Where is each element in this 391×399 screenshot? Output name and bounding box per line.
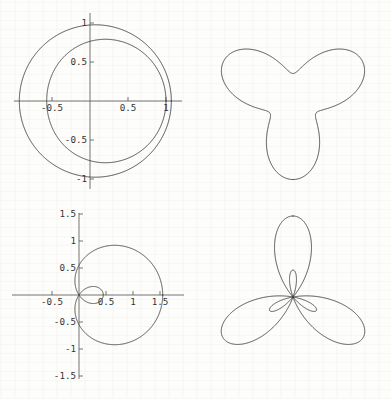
bottom-left-xlabel-1: -0.5 xyxy=(41,296,63,307)
panel-top-left: -0.5 0.5 1 1 0.5 -0.5 -1 xyxy=(0,0,196,200)
bottom-left-ylabel-3: 0.5 xyxy=(59,262,76,273)
panel-top-right xyxy=(195,0,391,200)
top-left-xlabel-1: -0.5 xyxy=(41,102,63,113)
panel-top-left-area xyxy=(0,0,196,200)
panel-bottom-right-area xyxy=(195,200,391,399)
bottom-left-ylabel-4: -0.5 xyxy=(54,316,76,327)
bottom-left-xlabel-4: 1.5 xyxy=(152,296,169,307)
panel-bottom-left: -0.5 0.5 1 1.5 1.5 1 0.5 -0.5 -1 -1.5 xyxy=(0,200,196,399)
polar-plot-figure: -0.5 0.5 1 1 0.5 -0.5 -1 -0.5 0.5 1 xyxy=(0,0,391,399)
panel-bottom-right xyxy=(195,200,391,399)
bottom-left-ylabel-1: 1.5 xyxy=(59,208,76,219)
bottom-left-xlabel-3: 1 xyxy=(130,296,136,307)
bottom-left-ylabel-5: -1 xyxy=(65,343,76,354)
top-left-ylabel-2: 0.5 xyxy=(70,56,87,67)
bottom-left-ylabel-6: -1.5 xyxy=(54,370,76,381)
top-left-xlabel-2: 0.5 xyxy=(120,102,137,113)
panel-top-right-area xyxy=(195,0,391,200)
bottom-left-ylabel-2: 1 xyxy=(70,235,76,246)
top-left-ylabel-3: -0.5 xyxy=(65,134,87,145)
